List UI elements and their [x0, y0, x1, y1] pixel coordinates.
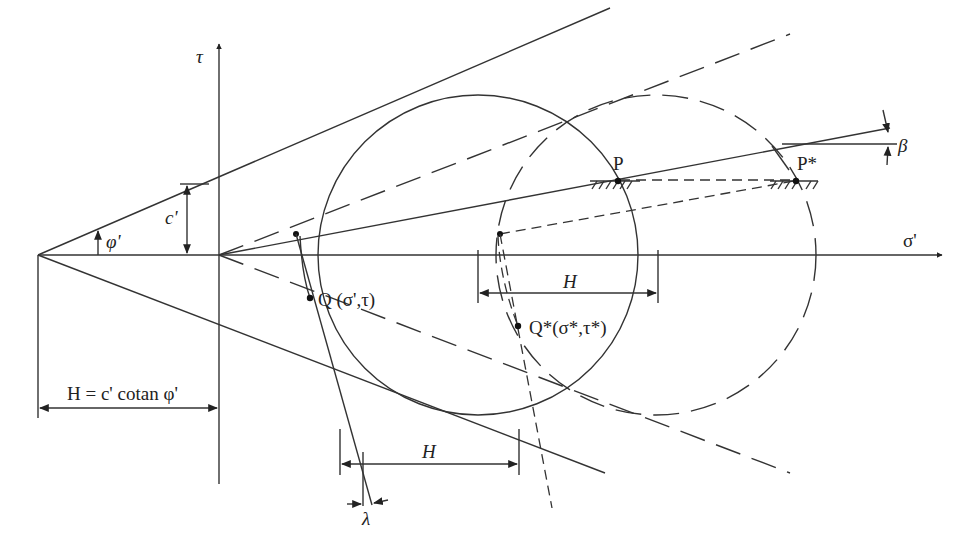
H-definition-label: H = c' cotan φ' — [67, 383, 178, 404]
point-Q — [307, 295, 313, 301]
upper-dashed-envelope — [219, 34, 790, 255]
point-Q-label: Q (σ',τ) — [318, 289, 375, 311]
beta-arrow-bottom — [887, 147, 888, 165]
point-P-star — [793, 178, 799, 184]
pole-to-Qstar-arc — [498, 236, 518, 326]
point-P-star-label: P* — [797, 153, 817, 174]
P-hatching — [590, 181, 640, 189]
point-P — [615, 178, 621, 184]
tau-axis-label: τ — [196, 46, 204, 67]
pole-to-Qstar-dashed — [500, 234, 552, 508]
point-P-label: P — [613, 153, 624, 174]
beta-label: β — [897, 135, 908, 156]
point-Q-star — [515, 323, 521, 329]
pole-to-Pstar-dashed — [500, 181, 794, 234]
lambda-label: λ — [361, 508, 370, 529]
H-upper-label: H — [562, 271, 578, 292]
upper-envelope — [38, 8, 610, 255]
cohesion-label: c' — [165, 207, 178, 228]
lambda-arrow-right — [374, 500, 388, 503]
lower-dashed-envelope — [219, 255, 790, 473]
phi-label: φ' — [106, 231, 122, 252]
point-Q-star-label: Q*(σ*,τ*) — [529, 317, 607, 339]
mohr-coulomb-diagram: τ σ' H = c' cotan φ' φ' c' β — [0, 0, 954, 554]
sigma-axis-label: σ' — [903, 230, 917, 251]
inclined-line-through-P — [219, 128, 890, 255]
Pstar-small-arc — [772, 146, 789, 170]
H-lower-label: H — [421, 441, 437, 462]
